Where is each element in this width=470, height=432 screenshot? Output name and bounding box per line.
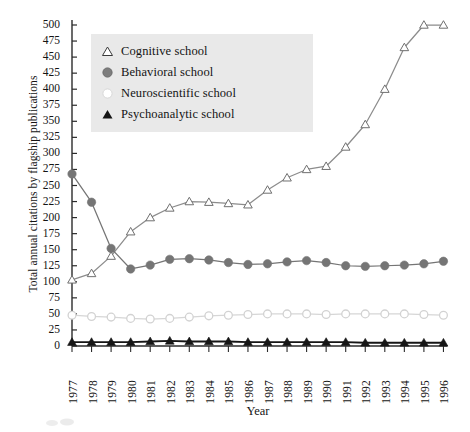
chart-legend: Cognitive school Behavioral school Neuro…	[91, 34, 313, 132]
x-axis-tick-label: 1986	[243, 380, 255, 404]
y-axis-tick-label: 150	[26, 244, 60, 256]
x-axis-tick-label: 1978	[87, 380, 99, 404]
y-axis-tick-label: 200	[26, 212, 60, 224]
y-axis-tick-label: 300	[26, 147, 60, 159]
x-axis-tick-label: 1994	[399, 380, 411, 404]
legend-label: Psychoanalytic school	[121, 107, 235, 122]
filled-triangle-icon	[101, 108, 121, 121]
y-axis-tick-label: 450	[26, 51, 60, 63]
y-axis-tick-label: 350	[26, 115, 60, 127]
y-axis-tick-label: 0	[26, 340, 60, 352]
x-axis-tick-label: 1995	[419, 380, 431, 404]
x-axis-tick-label: 1989	[302, 380, 314, 404]
x-axis-tick-labels: 1977197819791980198119821983198419851986…	[62, 356, 462, 404]
y-axis-tick-label: 75	[26, 292, 60, 304]
legend-label: Cognitive school	[121, 44, 208, 59]
y-axis-tick-label: 125	[26, 260, 60, 272]
x-axis-tick-label: 1990	[321, 380, 333, 404]
x-axis-tick-label: 1988	[282, 380, 294, 404]
legend-item: Behavioral school	[101, 62, 305, 83]
open-circle-icon	[101, 87, 121, 100]
filled-circle-icon	[101, 66, 121, 79]
y-axis-tick-label: 500	[26, 19, 60, 31]
citations-line-chart-figure: Total annual citations by flagship publi…	[0, 0, 470, 432]
open-triangle-icon	[101, 45, 121, 58]
y-axis-tick-labels: 5004754504254003753503253002752502252001…	[20, 0, 60, 360]
y-axis-tick-label: 325	[26, 131, 60, 143]
page-scan-artifact	[40, 414, 78, 427]
x-axis-tick-label: 1981	[145, 380, 157, 404]
legend-item: Neuroscientific school	[101, 83, 305, 104]
x-axis-tick-label: 1984	[204, 380, 216, 404]
x-axis-tick-label: 1977	[67, 380, 79, 404]
x-axis-tick-label: 1991	[341, 380, 353, 404]
x-axis-tick-label: 1992	[360, 380, 372, 404]
y-axis-tick-label: 425	[26, 67, 60, 79]
y-axis-tick-label: 275	[26, 163, 60, 175]
y-axis-tick-label: 475	[26, 35, 60, 47]
y-axis-tick-label: 225	[26, 196, 60, 208]
legend-item: Psychoanalytic school	[101, 104, 305, 125]
legend-item: Cognitive school	[101, 41, 305, 62]
x-axis-tick-label: 1987	[263, 380, 275, 404]
y-axis-tick-label: 250	[26, 180, 60, 192]
x-axis-tick-label: 1982	[165, 380, 177, 404]
y-axis-tick-label: 175	[26, 228, 60, 240]
x-axis-tick-label: 1996	[438, 380, 450, 404]
legend-label: Behavioral school	[121, 65, 213, 80]
x-axis-tick-label: 1980	[126, 380, 138, 404]
x-axis-tick-label: 1983	[184, 380, 196, 404]
y-axis-tick-label: 25	[26, 324, 60, 336]
x-axis-tick-label: 1985	[223, 380, 235, 404]
y-axis-tick-label: 400	[26, 83, 60, 95]
x-axis-tick-label: 1993	[380, 380, 392, 404]
y-axis-tick-label: 100	[26, 276, 60, 288]
legend-label: Neuroscientific school	[121, 86, 236, 101]
x-axis-tick-label: 1979	[106, 380, 118, 404]
y-axis-tick-label: 50	[26, 308, 60, 320]
y-axis-tick-label: 375	[26, 99, 60, 111]
